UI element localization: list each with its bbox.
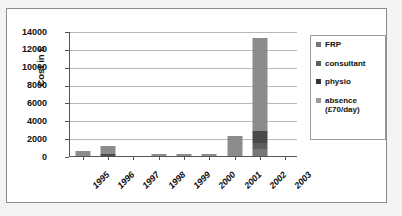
bar-stack[interactable] (227, 136, 242, 156)
bar-slot (146, 32, 171, 156)
y-axis-tick-label: 0 (3, 153, 47, 162)
x-axis-tick-label: 1995 (90, 169, 111, 190)
x-axis-tick-label: 1996 (115, 169, 136, 190)
y-axis-tick-label: 6000 (3, 99, 47, 108)
x-axis-tick-label: 1999 (191, 169, 212, 190)
chart-frame: Cost in £ 140001200010000800060004000200… (6, 8, 387, 203)
bar-slot (197, 32, 222, 156)
x-axis-tick-label: 2003 (293, 169, 314, 190)
bar-slot (171, 32, 196, 156)
chart-page: Cost in £ 140001200010000800060004000200… (0, 0, 402, 216)
legend-label: physio (325, 77, 351, 87)
x-axis-tick-mark (133, 156, 134, 160)
bar-stack[interactable] (100, 146, 115, 156)
y-axis-tick-label: 4000 (3, 117, 47, 126)
y-axis-tick-label: 10000 (3, 63, 47, 72)
y-axis-tick-label: 12000 (3, 45, 47, 54)
x-axis-tick-label: 1998 (166, 169, 187, 190)
legend-label: consultant (325, 59, 365, 69)
legend-label: absence(£70/day) (325, 96, 360, 115)
x-axis-tick-label: 2000 (217, 169, 238, 190)
y-axis-tick-label: 2000 (3, 135, 47, 144)
legend-item[interactable]: consultant (316, 59, 385, 69)
bar-stack[interactable] (252, 38, 267, 156)
bar-slot (70, 32, 95, 156)
bar-segment[interactable] (252, 131, 267, 143)
bar-segment[interactable] (227, 136, 242, 156)
chart-legend: FRPconsultantphysioabsence(£70/day) (310, 35, 386, 140)
y-axis-tick-label: 8000 (3, 81, 47, 90)
bar-slot (95, 32, 120, 156)
legend-item[interactable]: physio (316, 77, 385, 87)
legend-swatch-icon (316, 98, 321, 103)
bar-slot (121, 32, 146, 156)
bar-segment[interactable] (100, 146, 115, 154)
x-axis-tick-mark (83, 156, 84, 160)
x-axis-tick-label: 2001 (242, 169, 263, 190)
x-axis-tick-mark (260, 156, 261, 160)
x-axis-tick-mark (235, 156, 236, 160)
y-axis-tick-mark (65, 157, 69, 158)
legend-label: FRP (325, 40, 341, 50)
bar-segment[interactable] (252, 149, 267, 156)
x-axis-tick-mark (209, 156, 210, 160)
legend-item[interactable]: absence(£70/day) (316, 96, 385, 115)
bar-slot (273, 32, 298, 156)
bar-slot (222, 32, 247, 156)
x-axis-tick-mark (285, 156, 286, 160)
x-axis-tick-mark (159, 156, 160, 160)
legend-swatch-icon (316, 42, 321, 47)
legend-swatch-icon (316, 79, 321, 84)
x-axis-tick-mark (108, 156, 109, 160)
plot-area (69, 32, 297, 157)
bar-segment[interactable] (252, 38, 267, 131)
x-axis-tick-mark (184, 156, 185, 160)
x-axis-tick-label: 2002 (267, 169, 288, 190)
legend-item[interactable]: FRP (316, 40, 385, 50)
y-axis-tick-label: 14000 (3, 28, 47, 37)
bar-slot (247, 32, 272, 156)
x-axis-tick-label: 1997 (141, 169, 162, 190)
legend-swatch-icon (316, 61, 321, 66)
